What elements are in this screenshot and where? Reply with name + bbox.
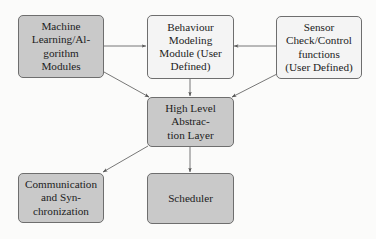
node-behaviour-modeling-module: Behaviour Modeling Module (User Defined) [147, 15, 234, 79]
node-ml-algorithm-modules: Machine Learning/Al- gorithm Modules [18, 15, 104, 78]
node-scheduler: Scheduler [147, 173, 234, 224]
edge-hal-to-comm [103, 146, 148, 172]
node-communication-synchronization: Communication and Syn- chronization [18, 173, 104, 223]
edge-ml-to-hal [104, 72, 149, 97]
node-label: Scheduler [168, 192, 213, 205]
node-high-level-abstraction-layer: High Level Abstrac- tion Layer [147, 97, 234, 147]
node-label: Behaviour Modeling Module (User Defined) [159, 21, 221, 74]
node-sensor-check-control: Sensor Check/Control functions (User Def… [276, 16, 362, 79]
node-label: Communication and Syn- chronization [25, 178, 97, 218]
node-label: Machine Learning/Al- gorithm Modules [32, 20, 90, 73]
node-label: High Level Abstrac- tion Layer [165, 102, 216, 142]
architecture-diagram: Machine Learning/Al- gorithm Modules Beh… [0, 0, 376, 239]
edge-sensor-to-hal [232, 74, 277, 97]
node-label: Sensor Check/Control functions (User Def… [285, 21, 352, 74]
